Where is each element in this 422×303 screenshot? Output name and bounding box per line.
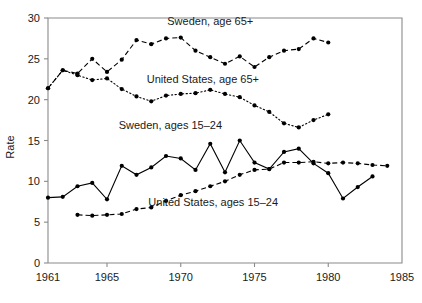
data-point [149,165,153,169]
data-point [75,73,79,77]
data-point [90,57,94,61]
data-point [193,168,197,172]
data-point [179,36,183,40]
data-point [179,156,183,160]
data-point [61,68,65,72]
data-point [46,86,50,90]
data-point [105,70,109,74]
data-point [282,160,286,164]
data-point [297,160,301,164]
y-tick-label: 15 [28,135,40,147]
y-tick-label: 0 [34,257,40,269]
series-label-0: Sweden, age 65+ [167,15,253,27]
data-point [193,189,197,193]
data-point [193,49,197,53]
y-tick-label: 10 [28,175,40,187]
x-tick-label: 1961 [36,271,60,283]
plot-border [48,18,402,263]
data-point [326,171,330,175]
data-point [326,112,330,116]
data-point [326,161,330,165]
data-point [134,38,138,42]
data-point [134,207,138,211]
data-point [252,168,256,172]
data-point [297,47,301,51]
data-point [164,93,168,97]
data-point [311,36,315,40]
chart-figure: 051015202530 196119651970197519801985 Ra… [0,0,422,303]
data-point [75,213,79,217]
data-point [238,173,242,177]
x-tick-label: 1985 [390,271,414,283]
data-point [61,195,65,199]
data-point [297,125,301,129]
data-point [267,110,271,114]
data-point [238,95,242,99]
x-tick-label: 1975 [242,271,266,283]
data-point [252,65,256,69]
data-point [208,184,212,188]
data-point [105,197,109,201]
data-point [223,92,227,96]
data-point [223,62,227,66]
data-point [252,103,256,107]
data-point [134,94,138,98]
y-tick-label: 30 [28,12,40,24]
data-point [238,138,242,142]
data-point [267,167,271,171]
data-point [326,40,330,44]
data-point [282,49,286,53]
data-point [164,36,168,40]
data-point [370,163,374,167]
data-point [149,42,153,46]
data-point [208,88,212,92]
data-point [179,92,183,96]
data-point [356,161,360,165]
data-point [385,164,389,168]
series-labels: Sweden, age 65+United States, age 65+Swe… [119,15,278,208]
data-point [90,181,94,185]
data-point [120,58,124,62]
data-point [223,170,227,174]
data-point [297,147,301,151]
data-point [105,213,109,217]
data-point [341,196,345,200]
data-point [46,196,50,200]
series-line-2 [48,141,373,200]
data-point [90,214,94,218]
series-label-2: Sweden, ages 15–24 [119,119,222,131]
data-point [164,154,168,158]
y-axis-title: Rate [4,135,16,158]
data-point [311,118,315,122]
x-tick-label: 1965 [95,271,119,283]
suicide-rate-line-chart: 051015202530 196119651970197519801985 Ra… [0,0,422,303]
data-point [252,160,256,164]
x-axis-ticks: 196119651970197519801985 [36,263,414,283]
x-tick-label: 1980 [316,271,340,283]
series-label-3: United States, ages 15–24 [148,196,278,208]
data-point [120,87,124,91]
data-point [356,185,360,189]
data-point [120,212,124,216]
data-point [282,121,286,125]
y-tick-label: 20 [28,94,40,106]
series-label-1: United States, age 65+ [147,73,259,85]
plot-frame [48,18,402,263]
data-point [370,174,374,178]
data-point [223,179,227,183]
x-tick-label: 1970 [169,271,193,283]
data-point [75,184,79,188]
data-point [105,76,109,80]
y-tick-label: 5 [34,216,40,228]
data-point [120,164,124,168]
data-point [282,150,286,154]
data-point [341,160,345,164]
data-point [90,78,94,82]
data-point [208,142,212,146]
y-axis-ticks: 051015202530 [28,12,48,269]
data-point [193,91,197,95]
data-point [208,55,212,59]
data-point [267,55,271,59]
data-point [134,173,138,177]
data-point [311,160,315,164]
